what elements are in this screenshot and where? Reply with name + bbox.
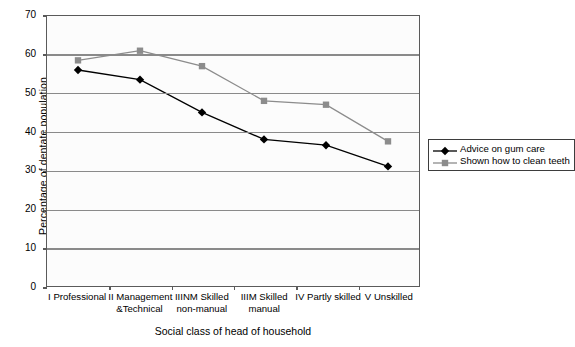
y-tick-mark bbox=[43, 15, 47, 16]
x-tick-label-line1: V Unskilled bbox=[365, 291, 413, 302]
data-point-marker bbox=[261, 98, 267, 104]
gridline bbox=[47, 132, 419, 133]
x-tick-mark bbox=[234, 286, 235, 290]
legend-item: Shown how to clean teeth bbox=[432, 155, 570, 167]
legend-diamond-marker-icon bbox=[432, 143, 458, 155]
x-axis-title: Social class of head of household bbox=[46, 325, 420, 337]
x-tick-label-line1: IIIM Skilled bbox=[241, 291, 288, 302]
y-tick-label: 70 bbox=[25, 10, 36, 20]
series-line bbox=[78, 51, 388, 142]
legend-label: Advice on gum care bbox=[458, 143, 545, 155]
plot-area bbox=[46, 15, 420, 287]
y-tick-label: 50 bbox=[25, 88, 36, 98]
x-tick-label-line2: non-manual bbox=[171, 303, 233, 315]
gridline bbox=[47, 93, 419, 94]
y-tick-mark bbox=[43, 287, 47, 288]
y-tick-label: 30 bbox=[25, 165, 36, 175]
y-axis-tick-labels: 706050403020100 bbox=[0, 0, 44, 347]
legend-item: Advice on gum care bbox=[432, 143, 570, 155]
x-tick-label-line1: II Management bbox=[108, 291, 172, 302]
x-tick-label-line2: manual bbox=[233, 303, 295, 315]
chart-legend: Advice on gum careShown how to clean tee… bbox=[428, 139, 575, 171]
y-tick-label: 10 bbox=[25, 243, 36, 253]
x-tick-label-line1: IIINM Skilled bbox=[175, 291, 229, 302]
y-tick-label: 60 bbox=[25, 49, 36, 59]
gridline bbox=[47, 171, 419, 172]
x-tick-mark bbox=[172, 286, 173, 290]
x-tick-mark bbox=[359, 286, 360, 290]
legend-square-marker-icon bbox=[432, 155, 458, 167]
data-point-marker bbox=[323, 102, 329, 108]
data-point-marker bbox=[322, 141, 330, 149]
y-tick-label: 20 bbox=[25, 204, 36, 214]
x-tick-label-line1: IV Partly skilled bbox=[295, 291, 361, 302]
x-tick-label: I Professional bbox=[46, 291, 108, 303]
data-point-marker bbox=[384, 162, 392, 170]
x-tick-label: IIIM Skilledmanual bbox=[233, 291, 295, 314]
x-tick-label: II Management&Technical bbox=[108, 291, 170, 314]
data-point-marker bbox=[385, 138, 391, 144]
data-point-marker bbox=[260, 135, 268, 143]
x-axis-tick-labels: I ProfessionalII Management&TechnicalIII… bbox=[46, 291, 420, 325]
x-tick-label-line2: &Technical bbox=[108, 303, 170, 315]
legend-label: Shown how to clean teeth bbox=[458, 155, 570, 167]
data-point-marker bbox=[136, 75, 144, 83]
x-tick-mark bbox=[296, 286, 297, 290]
series-layer bbox=[47, 16, 419, 286]
x-tick-label: IIINM Skillednon-manual bbox=[171, 291, 233, 314]
gridline bbox=[47, 54, 419, 55]
data-point-marker bbox=[74, 66, 82, 74]
x-tick-label-line1: I Professional bbox=[48, 291, 106, 302]
y-tick-label: 40 bbox=[25, 127, 36, 137]
data-point-marker bbox=[198, 108, 206, 116]
x-tick-mark bbox=[109, 286, 110, 290]
data-point-marker bbox=[75, 57, 81, 63]
data-point-marker bbox=[137, 48, 143, 54]
data-point-marker bbox=[199, 63, 205, 69]
x-tick-label: IV Partly skilled bbox=[295, 291, 357, 303]
gridline bbox=[47, 210, 419, 211]
gridline bbox=[47, 248, 419, 249]
series-line bbox=[78, 70, 388, 166]
x-tick-label: V Unskilled bbox=[358, 291, 420, 303]
y-tick-label: 0 bbox=[30, 282, 36, 292]
